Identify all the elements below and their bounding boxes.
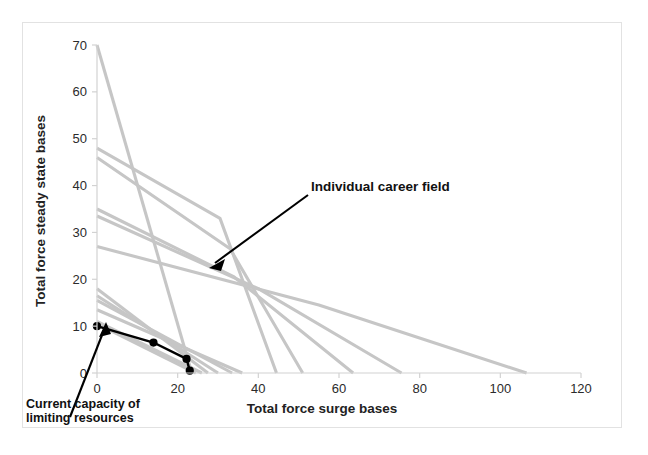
y-tick-label-20: 20 — [73, 272, 87, 287]
x-axis-label: Total force surge bases — [247, 401, 398, 416]
y-axis-label: Total force steady state bases — [33, 115, 48, 307]
career-field-label: Individual career field — [311, 179, 450, 194]
limiting-resources-point-3 — [182, 355, 190, 363]
x-tick-label-40: 40 — [251, 381, 265, 396]
series-layer — [97, 45, 527, 373]
career-field-line-10 — [97, 310, 242, 373]
career-field-line-2 — [97, 148, 276, 373]
career-field-line-9 — [97, 300, 232, 373]
y-tick-label-60: 60 — [73, 84, 87, 99]
y-tick-label-40: 40 — [73, 178, 87, 193]
x-tick-label-80: 80 — [412, 381, 426, 396]
figure-container: 020406080100120010203040506070 Individua… — [0, 0, 648, 455]
x-tick-label-120: 120 — [570, 381, 592, 396]
x-tick-label-20: 20 — [170, 381, 184, 396]
caption-line-2: limiting resources — [26, 411, 140, 425]
x-tick-label-100: 100 — [489, 381, 511, 396]
x-tick-label-60: 60 — [332, 381, 346, 396]
chart-frame: 020406080100120010203040506070 Individua… — [22, 22, 622, 428]
y-tick-label-70: 70 — [73, 38, 87, 53]
chart-canvas: 020406080100120010203040506070 Individua… — [23, 23, 621, 427]
annotation-individual-career-field: Individual career field — [209, 179, 450, 271]
y-tick-label-30: 30 — [73, 225, 87, 240]
caption-line-1: Current capacity of — [26, 397, 140, 411]
caption-current-capacity: Current capacity of limiting resources — [26, 397, 140, 425]
y-tick-label-50: 50 — [73, 131, 87, 146]
limiting-resources-point-2 — [149, 338, 157, 346]
career-field-arrow-line — [215, 195, 308, 263]
x-tick-label-0: 0 — [93, 381, 100, 396]
y-tick-label-10: 10 — [73, 319, 87, 334]
axes-layer — [92, 45, 581, 378]
